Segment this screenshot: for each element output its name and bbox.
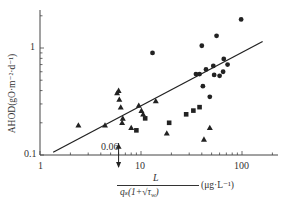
data-point-circle <box>199 43 204 48</box>
x-tick-label-1: 1 <box>38 160 43 171</box>
x-label-numerator: L <box>153 172 159 183</box>
data-point-circle <box>239 17 244 22</box>
x-tick-label-100: 100 <box>234 160 249 171</box>
x-label-denominator-end: ) <box>156 187 159 197</box>
x-label-unit: (μg·L⁻¹) <box>201 179 234 190</box>
data-point-circle <box>214 33 219 38</box>
data-point-triangle <box>102 122 108 127</box>
data-point-circle <box>200 84 205 89</box>
data-point-circle <box>150 50 155 55</box>
x-label-denominator-main: qₛ(1+√τ <box>120 187 151 197</box>
data-point-circle <box>211 64 216 69</box>
data-point-square <box>197 105 202 110</box>
y-tick-label-1: 1 <box>30 41 35 52</box>
data-point-square <box>184 112 189 117</box>
data-point-circle <box>221 57 226 62</box>
data-point-square <box>167 120 172 125</box>
data-point-triangle <box>75 122 81 127</box>
data-point-circle <box>225 62 230 67</box>
regression-line <box>53 42 262 153</box>
data-point-triangle <box>207 125 213 130</box>
arrow-down-icon <box>116 162 121 168</box>
data-point-square <box>134 128 139 133</box>
data-point-circle <box>212 73 217 78</box>
data-point-triangle <box>118 104 124 109</box>
annotation-label: 0.06 <box>101 141 119 152</box>
scatter-chart <box>0 0 283 204</box>
data-point-circle <box>217 73 222 78</box>
data-point-triangle <box>136 103 142 108</box>
data-point-square <box>143 116 148 121</box>
data-point-circle <box>204 67 209 72</box>
data-point-triangle <box>128 125 134 130</box>
x-tick-label-10: 10 <box>135 160 145 171</box>
data-point-circle <box>221 69 226 74</box>
data-point-triangle <box>164 130 170 135</box>
data-point-circle <box>207 94 212 99</box>
y-axis-label: AHOD(gO·m⁻²·d⁻¹) <box>6 54 17 134</box>
x-label-denominator: qₛ(1+√τw) <box>120 186 159 199</box>
y-tick-label-0-1: 0.1 <box>24 148 37 159</box>
data-point-circle <box>197 72 202 77</box>
data-point-triangle <box>116 97 122 102</box>
data-point-triangle <box>201 136 207 141</box>
data-point-triangle <box>116 88 122 93</box>
data-point-square <box>191 108 196 113</box>
